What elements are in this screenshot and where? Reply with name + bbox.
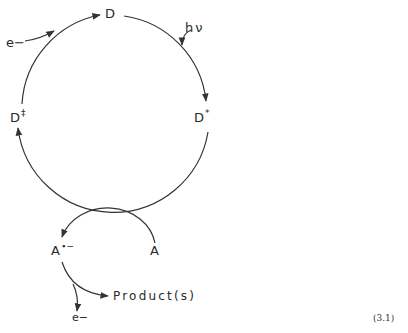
electron-in-label: e−	[6, 36, 25, 49]
electron-in-arrow	[25, 31, 54, 41]
electron-out-arrow	[73, 284, 78, 311]
electron-out-label: e−	[72, 312, 88, 323]
arc-dplus-to-d	[22, 15, 100, 104]
cycle-diagram	[0, 0, 408, 333]
equation-number: (3.1)	[373, 313, 394, 323]
arc-areduced-to-product	[62, 262, 108, 296]
node-d: D	[105, 7, 115, 20]
product-label: Product(s)	[113, 290, 196, 302]
light-label: hν	[185, 21, 205, 34]
node-d-excited: D*	[194, 111, 210, 124]
node-a-reduced: A∙−	[51, 244, 74, 257]
node-d-oxidized: D‡	[10, 111, 26, 124]
arc-dstar-to-dplus	[18, 128, 208, 212]
arc-a-to-areduced	[62, 208, 155, 243]
node-a: A	[150, 244, 159, 257]
